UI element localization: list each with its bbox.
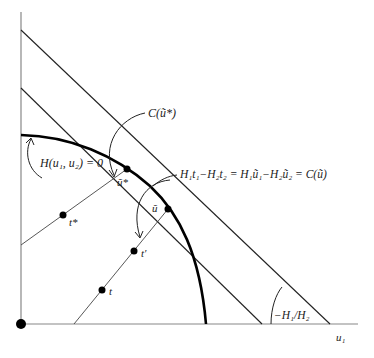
ray-tstar-line [21, 169, 127, 245]
origin-dot [16, 319, 26, 329]
point-u-tilde [165, 206, 172, 213]
middle-tangent-line [21, 88, 262, 324]
label-x-axis: u₁ [336, 331, 346, 343]
frontier-diagram: C(ũ*) H(u₁, u₂) = 0 H₁t₁−H₂t₂ = H₁ũ₁−H₂ũ… [0, 0, 374, 358]
label-u-tilde: ũ [152, 202, 158, 214]
point-t-prime [131, 248, 138, 255]
label-t-star: t* [69, 216, 78, 228]
label-t-prime: t′ [141, 247, 147, 259]
point-t [99, 287, 106, 294]
label-equation: H₁t₁−H₂t₂ = H₁ũ₁−H₂ũ₂ = C(ũ) [179, 168, 327, 181]
ray-t-line [74, 209, 168, 324]
label-t: t [109, 285, 113, 297]
label-c-ustar: C(ũ*) [148, 106, 176, 120]
point-u-tilde-star [124, 166, 131, 173]
point-t-star [60, 212, 67, 219]
label-slope: −H₁/H₂ [274, 309, 310, 321]
label-u-star: ũ* [117, 176, 129, 188]
label-h-curve: H(u₁, u₂) = 0 [39, 156, 103, 170]
